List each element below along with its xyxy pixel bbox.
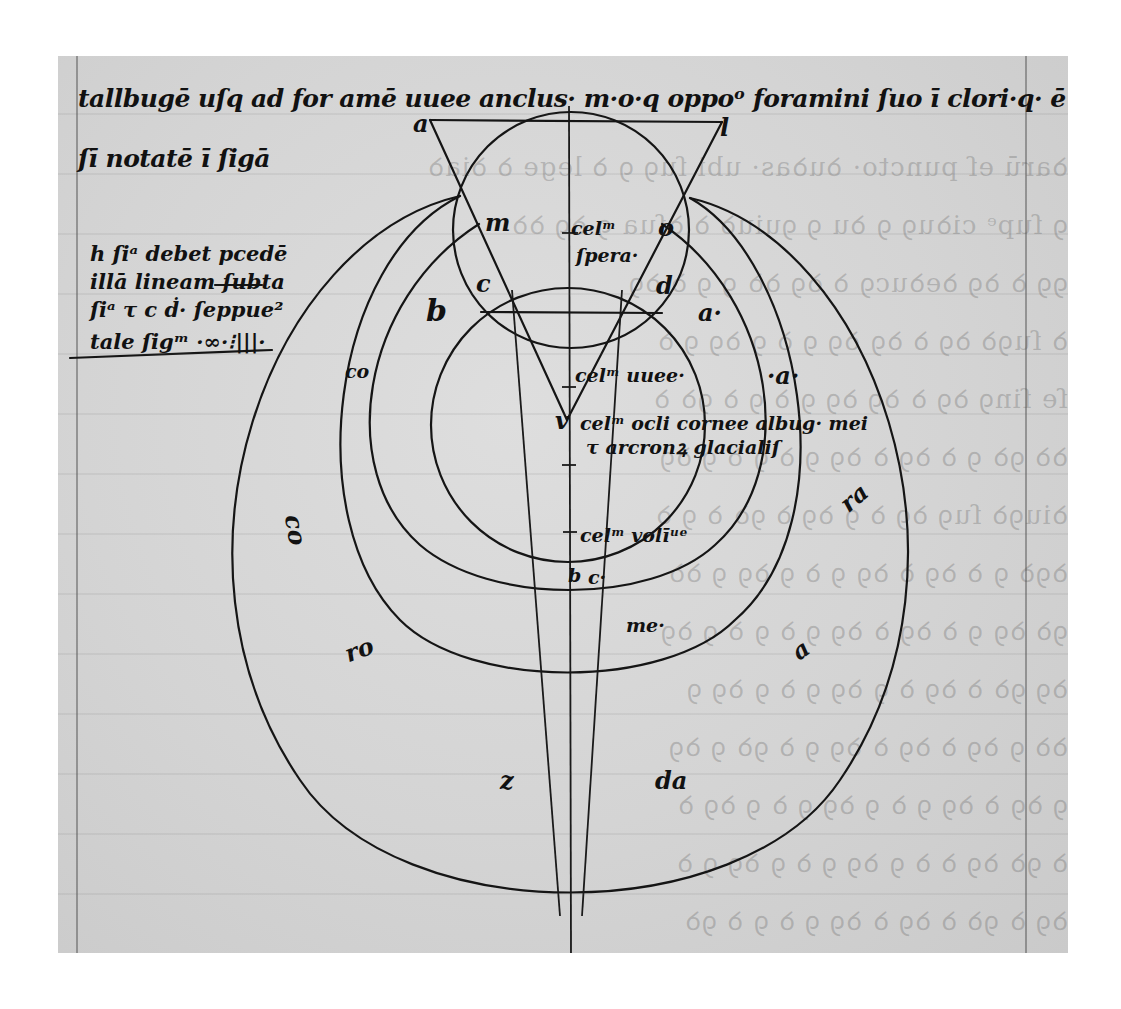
horizontal-chord (481, 312, 662, 313)
label-da: da (655, 769, 687, 793)
label-m: m (485, 211, 510, 235)
label-b-bottom: b (568, 566, 581, 585)
label-v: v (555, 409, 569, 433)
label-l-top-right: l (720, 116, 729, 140)
label-d-right: d (656, 274, 673, 298)
label-cel-uuee: celᵐ uuee· (575, 366, 685, 385)
label-c-left: c (476, 272, 491, 296)
label-co-left: co (345, 362, 369, 381)
label-z: z (500, 769, 514, 793)
margin-note-line-3: ſiᵃ τ c ḋ· ſeppue² (90, 299, 283, 320)
eye-diagram (58, 56, 1068, 953)
margin-note-line-2: illā lineam ſubta (90, 271, 285, 292)
label-o: o (658, 216, 674, 240)
label-me: me· (626, 616, 665, 635)
label-a-right: a· (698, 301, 722, 325)
triangle-left-edge (430, 120, 567, 420)
manuscript-page: ꝺarū eſ puncto· ꝺuꝺas· ubi ſuꝯ ꝯ ꝺ lege … (58, 56, 1068, 953)
label-a-top-left: a (413, 112, 429, 136)
label-co-far-left: co (281, 513, 310, 547)
margin-note-line-1: h ſiᵃ debet pcedē (90, 243, 287, 264)
label-dot-a: ·a· (767, 364, 799, 388)
header-text-line-2: ſī notatē ī ſigā (78, 146, 270, 171)
label-spera: ſpera· (576, 246, 638, 265)
header-text-line-1: tallbugē uſq ad for amē uuee anclus· m·o… (78, 86, 1068, 111)
triangle-top-edge (430, 120, 722, 122)
margin-note-line-4: tale ſigᵐ ·∞·⁝|||· (90, 331, 266, 352)
label-c-bottom: c· (588, 568, 606, 587)
label-b-left: b (426, 296, 447, 326)
label-cel-oculi-2: τ arcronꝝ glacialiſ (586, 438, 780, 457)
label-cella: celᵐ (571, 219, 616, 238)
label-cel-voli: celᵐ volīᵘᵉ (580, 526, 688, 545)
converging-line-left (512, 290, 560, 916)
label-cel-oculi: celᵐ ocli cornee albug· mei (580, 414, 868, 433)
